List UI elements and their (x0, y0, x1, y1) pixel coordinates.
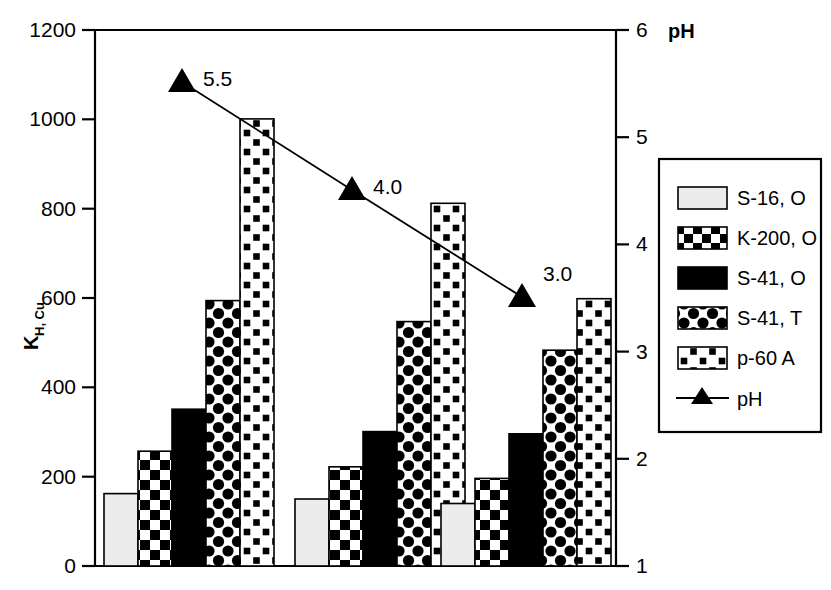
legend-swatch-s16o (678, 187, 727, 209)
y-axis-right-ticks: 1 2 3 4 5 6 (616, 18, 648, 577)
y-tick-right-5: 6 (616, 18, 648, 41)
y-tick-left-2: 400 (41, 375, 95, 398)
legend-swatch-s41t (678, 307, 727, 329)
legend-swatch-k200o (678, 227, 727, 249)
y-tick-right-label-5: 6 (636, 18, 648, 41)
y-tick-right-label-0: 1 (636, 554, 648, 577)
legend-label-s41o: S-41, O (737, 267, 806, 289)
bar-s16o-g3 (441, 504, 475, 567)
y-tick-right-label-1: 2 (636, 447, 648, 470)
bar-s41t-g2 (397, 322, 431, 566)
chart-figure: 0 200 400 600 800 1000 (0, 0, 831, 590)
legend-item-s41o[interactable]: S-41, O (678, 267, 806, 289)
y-tick-left-label-1: 200 (41, 465, 76, 488)
legend-item-s41t[interactable]: S-41, T (678, 307, 802, 329)
y-tick-right-label-2: 3 (636, 340, 648, 363)
y-tick-left-label-5: 1000 (29, 107, 76, 130)
y-tick-left-label-0: 0 (64, 554, 76, 577)
bar-s16o-g2 (295, 499, 329, 566)
bar-s41t-g1 (206, 301, 240, 566)
y-tick-left-6: 1200 (29, 18, 95, 41)
y-tick-left-3: 600 (41, 286, 95, 309)
y-tick-right-label-3: 4 (636, 232, 648, 255)
legend-label-p60a: p-60 A (737, 347, 795, 369)
legend-label-s16o: S-16, O (737, 187, 806, 209)
bar-k200o-g2 (329, 467, 363, 566)
bar-k200o-g3 (475, 478, 509, 566)
bar-s16o-g1 (104, 494, 138, 566)
y-axis-left-title-main: K (20, 335, 42, 350)
y-tick-right-1: 2 (616, 447, 648, 470)
y-axis-left-title-subscript: H, Cu (32, 302, 47, 336)
legend-label-s41t: S-41, T (737, 307, 802, 329)
bar-s41o-g2 (363, 432, 397, 566)
legend-item-k200o[interactable]: K-200, O (678, 227, 817, 249)
y-tick-left-0: 0 (64, 554, 95, 577)
chart-legend: S-16, O K-200, O S-41, O S-41, T p-60 A (659, 159, 821, 432)
y-tick-left-5: 1000 (29, 107, 95, 130)
y-tick-right-2: 3 (616, 340, 648, 363)
y-tick-right-label-4: 5 (636, 125, 648, 148)
y-tick-left-4: 800 (41, 197, 95, 220)
y-tick-right-0: 1 (616, 554, 648, 577)
bar-k200o-g1 (138, 451, 172, 566)
y-tick-left-label-6: 1200 (29, 18, 76, 41)
y-axis-left-ticks: 0 200 400 600 800 1000 (29, 18, 95, 577)
chart-svg: 0 200 400 600 800 1000 (0, 0, 831, 590)
ph-point-label-2: 4.0 (373, 175, 402, 198)
y-tick-left-label-2: 400 (41, 375, 76, 398)
legend-item-p60a[interactable]: p-60 A (678, 347, 795, 369)
legend-item-s16o[interactable]: S-16, O (678, 187, 806, 209)
legend-label-ph: pH (737, 388, 763, 410)
y-tick-left-label-4: 800 (41, 197, 76, 220)
bar-s41t-g3 (543, 350, 577, 566)
y-tick-right-3: 4 (616, 232, 648, 255)
legend-swatch-p60a (678, 347, 727, 369)
y-axis-right-title: pH (668, 20, 695, 42)
bar-s41o-g3 (509, 434, 543, 566)
bar-s41o-g1 (172, 409, 206, 566)
y-tick-left-1: 200 (41, 465, 95, 488)
bar-p60a-g3 (577, 299, 611, 566)
ph-point-label-3: 3.0 (543, 262, 572, 285)
ph-point-label-1: 5.5 (203, 67, 232, 90)
y-axis-left-title: K H, Cu (20, 302, 47, 350)
legend-label-k200o: K-200, O (737, 227, 817, 249)
legend-swatch-s41o (678, 267, 727, 289)
y-tick-right-4: 5 (616, 125, 648, 148)
bar-p60a-g1 (240, 119, 274, 566)
